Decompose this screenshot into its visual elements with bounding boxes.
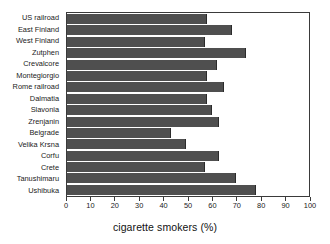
- bar-row: [67, 128, 309, 138]
- bar-row: [67, 14, 309, 24]
- y-axis-label: Tanushimaru: [0, 174, 63, 184]
- x-tick-label: 30: [135, 201, 143, 210]
- bar-row: [67, 162, 309, 172]
- y-axis-label: Rome railroad: [0, 82, 63, 92]
- y-axis-label: Zutphen: [0, 48, 63, 58]
- bar: [67, 25, 232, 35]
- bar: [67, 162, 205, 172]
- bar-row: [67, 185, 309, 195]
- bar: [67, 71, 207, 81]
- x-tick-label: 80: [257, 201, 265, 210]
- y-axis-label: Crevalcore: [0, 59, 63, 69]
- bar-row: [67, 60, 309, 70]
- x-tick-label: 20: [111, 201, 119, 210]
- x-tick-label: 50: [184, 201, 192, 210]
- bar-row: [67, 37, 309, 47]
- y-axis-label: Crete: [0, 163, 63, 173]
- y-axis-label: Velika Krsna: [0, 140, 63, 150]
- y-axis-label: Corfu: [0, 151, 63, 161]
- bar: [67, 105, 212, 115]
- bar: [67, 151, 219, 161]
- x-tick-label: 10: [86, 201, 94, 210]
- bar-row: [67, 139, 309, 149]
- bar: [67, 60, 217, 70]
- y-axis-label: Montegiorgio: [0, 71, 63, 81]
- y-axis-label: Dalmatia: [0, 94, 63, 104]
- bar: [67, 117, 219, 127]
- bar-row: [67, 105, 309, 115]
- x-axis-title: cigarette smokers (%): [0, 221, 330, 233]
- x-tick-label: 90: [281, 201, 289, 210]
- bar: [67, 48, 246, 58]
- bar: [67, 185, 256, 195]
- bar-row: [67, 94, 309, 104]
- x-tick-label: 60: [208, 201, 216, 210]
- y-axis-label: Zrenjanin: [0, 117, 63, 127]
- bar-chart-figure: US railroadEast FinlandWest FinlandZutph…: [0, 0, 330, 244]
- x-tick-label: 70: [233, 201, 241, 210]
- y-axis-label: West Finland: [0, 36, 63, 46]
- y-axis-label: US railroad: [0, 13, 63, 23]
- x-tick-label: 100: [304, 201, 316, 210]
- x-tick-label: 0: [64, 201, 68, 210]
- y-axis-label: Ushibuka: [0, 186, 63, 196]
- y-axis-label: East Finland: [0, 25, 63, 35]
- y-axis-label: Slavonia: [0, 105, 63, 115]
- plot-area: [66, 12, 310, 197]
- x-tick-label: 40: [159, 201, 167, 210]
- y-axis-category-labels: US railroadEast FinlandWest FinlandZutph…: [0, 12, 63, 197]
- bar-row: [67, 82, 309, 92]
- bar-row: [67, 173, 309, 183]
- bar-row: [67, 151, 309, 161]
- bars-container: [67, 13, 309, 196]
- bar-row: [67, 117, 309, 127]
- bar: [67, 139, 186, 149]
- bar-row: [67, 48, 309, 58]
- bar-row: [67, 71, 309, 81]
- bar: [67, 173, 236, 183]
- bar: [67, 82, 224, 92]
- y-axis-label: Belgrade: [0, 128, 63, 138]
- bar: [67, 37, 205, 47]
- x-axis-tick-labels: 0102030405060708090100: [66, 201, 310, 213]
- bar: [67, 94, 207, 104]
- bar: [67, 128, 171, 138]
- bar: [67, 14, 207, 24]
- bar-row: [67, 25, 309, 35]
